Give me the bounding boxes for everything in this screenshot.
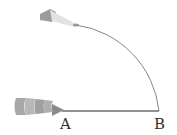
point-label-a: A (59, 115, 71, 133)
arc (76, 25, 159, 111)
point-label-b: B (154, 115, 165, 133)
compass-pencil-icon (40, 9, 79, 27)
geometry-diagram: A B (0, 0, 177, 135)
compass-needle-icon (15, 98, 65, 116)
